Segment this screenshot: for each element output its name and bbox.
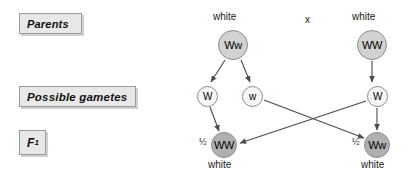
gamete-3-circle: W bbox=[367, 86, 388, 107]
arrow-gamete-1-to-f1-left bbox=[210, 107, 219, 131]
stage-label-possible-gametes: Possible gametes bbox=[19, 86, 136, 107]
f1-right-phenotype-label: white bbox=[361, 159, 384, 170]
parent-left-genotype-text: Ww bbox=[224, 39, 242, 51]
arrow-gamete-3-to-f1-left bbox=[240, 101, 366, 143]
genetics-cross-diagram: Parents Possible gametes F1 white Ww x bbox=[0, 0, 416, 175]
f1-right-genotype-circle: Ww bbox=[364, 132, 390, 158]
parent-right-phenotype-label: white bbox=[352, 11, 375, 22]
parent-left-phenotype-label: white bbox=[213, 11, 236, 22]
stage-label-f1-text: F bbox=[27, 136, 35, 150]
f1-left-phenotype-label: white bbox=[208, 159, 231, 170]
arrow-parent-left-to-gamete-1 bbox=[211, 60, 225, 82]
arrow-gamete-2-to-f1-right bbox=[264, 100, 364, 138]
gamete-3-allele-text: W bbox=[373, 91, 382, 102]
parent-left-genotype-circle: Ww bbox=[218, 30, 248, 60]
parent-right-genotype-circle: WW bbox=[357, 30, 387, 60]
gamete-2-circle: w bbox=[242, 86, 263, 107]
arrow-parent-left-to-gamete-2 bbox=[241, 60, 250, 82]
stage-label-parents: Parents bbox=[19, 13, 82, 34]
stage-label-parents-text: Parents bbox=[27, 18, 69, 30]
gamete-1-allele-text: W bbox=[203, 91, 212, 102]
gamete-2-allele-text: w bbox=[249, 91, 256, 102]
stage-label-f1-subscript: 1 bbox=[35, 138, 40, 147]
stage-label-possible-gametes-text: Possible gametes bbox=[27, 91, 127, 103]
cross-symbol: x bbox=[305, 14, 310, 25]
parent-right-genotype-text: WW bbox=[362, 39, 382, 51]
f1-right-ratio-label: ½ bbox=[352, 137, 360, 147]
f1-left-genotype-circle: WW bbox=[211, 132, 237, 158]
f1-left-genotype-text: WW bbox=[214, 139, 234, 151]
f1-left-ratio-label: ½ bbox=[199, 137, 207, 147]
f1-right-genotype-text: Ww bbox=[368, 139, 386, 151]
stage-label-f1: F1 bbox=[19, 130, 46, 155]
gamete-1-circle: W bbox=[197, 86, 218, 107]
